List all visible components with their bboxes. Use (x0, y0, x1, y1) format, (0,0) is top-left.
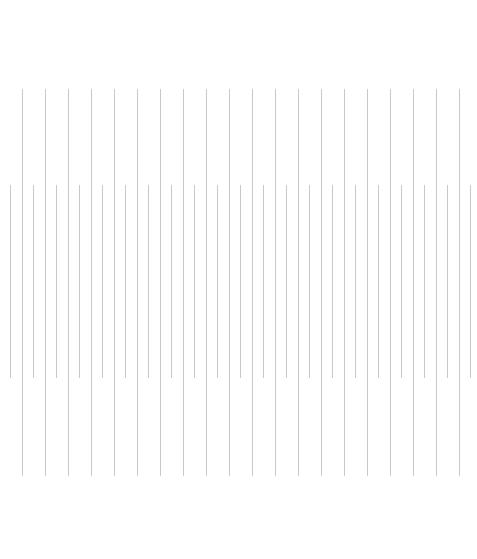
vertical-line (309, 185, 310, 378)
vertical-line (148, 185, 149, 378)
vertical-line (137, 89, 138, 476)
vertical-line (378, 185, 379, 378)
vertical-line (56, 185, 57, 378)
vertical-line (102, 185, 103, 378)
vertical-line (114, 89, 115, 476)
vertical-line (424, 185, 425, 378)
vertical-line (91, 89, 92, 476)
vertical-line (263, 185, 264, 378)
vertical-line (194, 185, 195, 378)
vertical-line (68, 89, 69, 476)
vertical-line (183, 89, 184, 476)
vertical-line (252, 89, 253, 476)
vertical-line (79, 185, 80, 378)
vertical-line (459, 89, 460, 476)
vertical-line (413, 89, 414, 476)
vertical-line (286, 185, 287, 378)
vertical-line (436, 89, 437, 476)
vertical-line (33, 185, 34, 378)
vertical-line (217, 185, 218, 378)
vertical-line (45, 89, 46, 476)
vertical-line (160, 89, 161, 476)
vertical-line (125, 185, 126, 378)
vertical-line (447, 185, 448, 378)
vertical-line (344, 89, 345, 476)
vertical-line (229, 89, 230, 476)
vertical-line (390, 89, 391, 476)
vertical-line (206, 89, 207, 476)
vertical-line (355, 185, 356, 378)
blank-canvas (0, 0, 477, 559)
vertical-line (367, 89, 368, 476)
vertical-line (470, 185, 471, 378)
vertical-line (171, 185, 172, 378)
vertical-line (401, 185, 402, 378)
vertical-line (240, 185, 241, 378)
vertical-line (298, 89, 299, 476)
vertical-line (275, 89, 276, 476)
vertical-line (332, 185, 333, 378)
vertical-line (321, 89, 322, 476)
vertical-line (10, 185, 11, 378)
vertical-line (22, 89, 23, 476)
